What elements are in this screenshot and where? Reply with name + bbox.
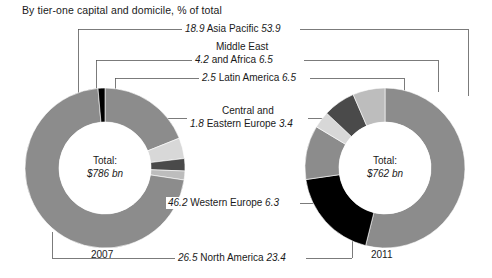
callout-central-eastern-europe-name: Eastern Europe [207,118,277,129]
chart-canvas: By tier-one capital and domicile, % of t… [0,0,492,278]
callout-central-eastern-europe: 1.8 Eastern Europe 3.4 [188,118,295,130]
donut-2007-total-value: $786 bn [65,168,145,181]
callout-western-europe-value-2007: 46.2 [168,197,187,208]
callout-asia-pacific-value-2007: 18.9 [185,23,204,34]
callout-middle-east-africa: 4.2 and Africa 6.5 [193,54,275,66]
callout-central-eastern-europe-top: Central and [220,105,276,117]
chart-title: By tier-one capital and domicile, % of t… [22,4,222,16]
callout-western-europe-name: Western Europe [190,197,262,208]
callout-asia-pacific-value-2011: 53.9 [261,23,280,34]
callout-central-eastern-europe-value-2011: 3.4 [279,118,293,129]
callout-latin-america-name: Latin America [219,72,280,83]
callout-north-america-value-2011: 23.4 [266,252,285,263]
donut-2011-center-label: Total: $762 bn [345,155,425,180]
callout-middle-east-africa-name: and Africa [212,54,256,65]
donut-2007-center-label: Total: $786 bn [65,155,145,180]
donut-2011-year-label: 2011 [371,249,393,260]
callout-western-europe: 46.2 Western Europe 6.3 [166,197,281,209]
callout-central-eastern-europe-line1: Central and [222,105,274,116]
donut-2011-total-caption: Total: [345,155,425,168]
callout-north-america: 26.5 North America 23.4 [176,252,288,264]
callout-latin-america-value-2011: 6.5 [282,72,296,83]
callout-asia-pacific: 18.9 Asia Pacific 53.9 [183,23,283,35]
callout-asia-pacific-name: Asia Pacific [207,23,259,34]
callout-middle-east-africa-value-2011: 6.5 [259,54,273,65]
callout-latin-america: 2.5 Latin America 6.5 [200,72,298,84]
callout-middle-east-africa-value-2007: 4.2 [195,54,209,65]
callout-central-eastern-europe-value-2007: 1.8 [190,118,204,129]
donut-2011-total-value: $762 bn [345,168,425,181]
callout-western-europe-value-2011: 6.3 [265,197,279,208]
donut-2007-year-label: 2007 [91,249,113,260]
donut-2007-total-caption: Total: [65,155,145,168]
callout-middle-east-africa-top: Middle East [214,41,270,53]
callout-north-america-name: North America [200,252,263,263]
callout-latin-america-value-2007: 2.5 [202,72,216,83]
callout-middle-east-africa-line1: Middle East [216,41,268,52]
callout-north-america-value-2007: 26.5 [178,252,197,263]
